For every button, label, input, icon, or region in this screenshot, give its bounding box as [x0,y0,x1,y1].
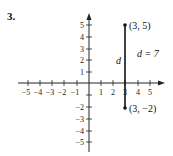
svg-text:−5: −5 [22,88,31,97]
problem-number: 3. [7,10,16,22]
segment-label: d [116,55,122,66]
x-axis: −5 −4 −3 −2 −1 1 2 3 4 5 [18,80,165,97]
svg-text:−1: −1 [71,88,80,97]
svg-text:3: 3 [80,45,84,54]
coordinate-plane: 3. −5 −4 −3 −2 −1 1 2 3 4 5 [0,0,173,156]
distance-result: d = 7 [137,48,160,59]
svg-text:−2: −2 [58,88,67,97]
svg-text:4: 4 [80,33,84,42]
y-arrow-icon [87,13,92,20]
svg-text:−3: −3 [46,88,55,97]
svg-text:−2: −2 [75,103,84,112]
svg-text:2: 2 [80,56,84,65]
point-label-3-5: (3, 5) [129,20,151,32]
svg-text:5: 5 [148,88,152,97]
svg-text:−4: −4 [75,127,84,136]
svg-text:4: 4 [136,88,140,97]
x-arrow-icon [158,81,165,86]
svg-text:−3: −3 [75,115,84,124]
point-label-3-neg2: (3, −2) [129,103,156,115]
svg-text:−4: −4 [34,88,43,97]
svg-text:2: 2 [111,88,115,97]
svg-text:1: 1 [99,88,103,97]
svg-text:5: 5 [80,21,84,30]
point-3-neg2 [123,106,127,110]
point-3-5 [123,23,127,27]
svg-text:1: 1 [80,68,84,77]
svg-text:−5: −5 [75,138,84,147]
